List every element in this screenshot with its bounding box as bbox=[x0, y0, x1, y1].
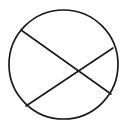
figure-canvas: Circle with two intersecting chords A pl… bbox=[0, 0, 126, 130]
circle-with-chords-diagram: Circle with two intersecting chords A pl… bbox=[0, 0, 126, 130]
circle-outline bbox=[9, 10, 118, 119]
